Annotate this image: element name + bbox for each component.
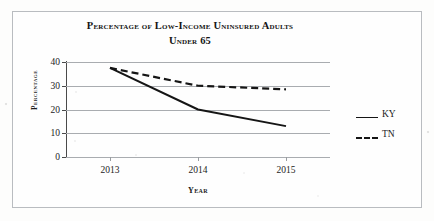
y-tick-label-30: 30 (51, 81, 61, 91)
series-line-tn (110, 68, 286, 89)
plot-area: 40 30 20 10 0 2013 2014 2015 (66, 62, 330, 157)
legend-item-tn: TN (356, 128, 416, 148)
figure-screenshot: Percentage of Low-Income Uninsured Adult… (0, 0, 434, 221)
legend-swatch-dashed-icon (356, 137, 378, 139)
legend-item-ky: KY (356, 108, 416, 128)
chart-title-line-1: Percentage of Low-Income Uninsured Adult… (40, 18, 340, 33)
x-tick-label-2013: 2013 (101, 165, 120, 175)
legend-swatch-solid-icon (356, 117, 378, 118)
y-tick-label-40: 40 (51, 57, 61, 67)
legend-label-ky: KY (382, 109, 396, 119)
series-line-ky (110, 68, 286, 126)
y-tick-label-0: 0 (55, 152, 60, 162)
x-tick-label-2015: 2015 (277, 165, 296, 175)
y-tick-label-10: 10 (51, 128, 61, 138)
x-axis-title: Year (66, 186, 330, 195)
legend-label-tn: TN (382, 129, 395, 139)
series-layer (66, 62, 330, 158)
y-tick-label-20: 20 (51, 105, 61, 115)
chart-title-line-2: Under 65 (40, 33, 340, 48)
chart-legend: KY TN (356, 108, 416, 148)
x-tick-label-2014: 2014 (189, 165, 208, 175)
y-axis-title: Percentage (30, 70, 39, 110)
chart-title: Percentage of Low-Income Uninsured Adult… (40, 18, 340, 48)
